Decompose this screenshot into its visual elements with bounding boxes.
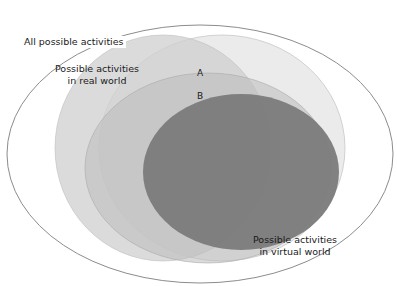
label-real-world-line2: in real world bbox=[54, 75, 140, 87]
venn-diagram: All possible activities Possible activit… bbox=[0, 0, 397, 286]
label-virtual-world-line1: Possible activities bbox=[250, 234, 340, 246]
label-real-world: Possible activities in real world bbox=[54, 63, 140, 87]
point-b-label: B bbox=[197, 91, 203, 101]
label-virtual-world-line2: in virtual world bbox=[250, 246, 340, 258]
region-core bbox=[143, 94, 339, 250]
point-a-label: A bbox=[197, 68, 203, 78]
label-real-world-line1: Possible activities bbox=[54, 63, 140, 75]
label-virtual-world: Possible activities in virtual world bbox=[250, 234, 340, 258]
label-all-activities: All possible activities bbox=[22, 36, 126, 48]
label-all-activities-text: All possible activities bbox=[24, 36, 124, 47]
